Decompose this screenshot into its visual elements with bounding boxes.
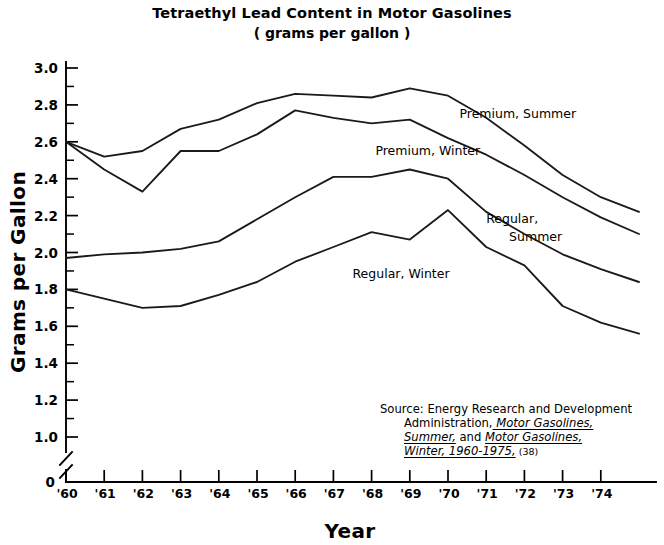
y-tick-label: 2.0 <box>34 245 58 261</box>
x-tick-label: '73 <box>553 486 574 501</box>
y-tick-label: 2.4 <box>34 171 58 187</box>
x-tick-label: '63 <box>171 486 192 501</box>
series-label-0: Premium, Summer <box>460 106 577 121</box>
x-tick-label: '69 <box>400 486 421 501</box>
series-label-2: Regular, <box>486 211 538 226</box>
source-line-4: Winter, 1960-1975, (38) <box>404 444 538 458</box>
x-tick-label: '66 <box>286 486 308 501</box>
source-line-3: Summer, and Motor Gasolines, <box>404 430 582 444</box>
x-tick-label: '60 <box>56 486 78 501</box>
x-tick-label: '62 <box>133 486 154 501</box>
chart-figure: Tetraethyl Lead Content in Motor Gasolin… <box>0 0 664 545</box>
source-line-1-text: Energy Research and Development <box>427 402 632 416</box>
y-tick-label: 2.2 <box>34 208 58 224</box>
x-tick-label: '64 <box>209 486 231 501</box>
x-tick-label: '67 <box>324 486 345 501</box>
line-chart: Tetraethyl Lead Content in Motor Gasolin… <box>0 0 664 545</box>
source-line-2: Administration, Motor Gasolines, <box>404 416 593 430</box>
source-reference: (38) <box>516 446 539 457</box>
chart-subtitle: ( grams per gallon ) <box>254 25 411 41</box>
series-line-1 <box>66 110 639 234</box>
y-axis-ticks: 1.01.21.41.61.82.02.22.42.62.83.0 <box>34 60 78 445</box>
y-tick-label: 1.8 <box>34 281 58 297</box>
y-tick-label: 2.8 <box>34 97 58 113</box>
x-tick-label: '72 <box>515 486 536 501</box>
x-tick-label: '65 <box>247 486 268 501</box>
source-line-3-italic: Summer, <box>404 430 456 444</box>
y-axis-zero-label: 0 <box>46 474 55 490</box>
x-tick-label: '74 <box>591 486 613 501</box>
y-tick-label: 1.4 <box>34 355 58 371</box>
series-label-3: Regular, Winter <box>353 266 451 281</box>
source-line-2-plain: Administration, <box>404 416 493 430</box>
x-tick-label: '71 <box>477 486 498 501</box>
source-line-4-italic: Winter, 1960-1975, <box>404 444 516 458</box>
x-axis-label: Year <box>323 519 375 543</box>
y-tick-label: 1.0 <box>34 429 58 445</box>
source-line-3-italic-2: Motor Gasolines, <box>485 430 582 444</box>
y-tick-label: 1.6 <box>34 318 58 334</box>
source-line-2-italic: Motor Gasolines, <box>493 416 594 430</box>
x-tick-label: '68 <box>362 486 383 501</box>
x-axis-ticks: '60'61'62'63'64'65'66'67'68'69'70'71'72'… <box>56 470 612 501</box>
source-line-3-plain: and <box>456 430 485 444</box>
source-prefix: Source: <box>380 402 427 416</box>
x-tick-label: '61 <box>95 486 116 501</box>
y-tick-label: 2.6 <box>34 134 58 150</box>
y-tick-label: 3.0 <box>34 60 58 76</box>
chart-title: Tetraethyl Lead Content in Motor Gasolin… <box>152 5 512 21</box>
x-tick-label: '70 <box>438 486 460 501</box>
y-axis-break-upper <box>60 452 72 465</box>
source-note: Source: Energy Research and Development … <box>380 402 633 458</box>
y-axis-label: Grams per Gallon <box>6 171 30 373</box>
data-series-group <box>66 88 639 333</box>
y-tick-label: 1.2 <box>34 392 58 408</box>
series-line-2 <box>66 170 639 283</box>
series-label-1: Premium, Winter <box>375 143 481 158</box>
source-line-1: Source: Energy Research and Development <box>380 402 633 416</box>
series-label-2-line2: Summer <box>509 229 563 244</box>
